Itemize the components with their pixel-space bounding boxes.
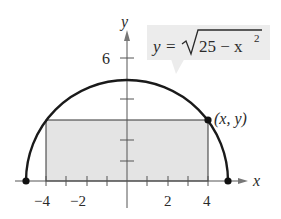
- x-axis-label: x: [252, 172, 260, 189]
- x-tick-label-neg2: −2: [70, 193, 86, 209]
- x-axis-arrow-icon: [238, 178, 248, 184]
- point-xy: [204, 116, 211, 123]
- y-axis-label: y: [119, 13, 129, 31]
- semicircle-diagram: y x 6 −4 −2 2 4 (x, y) y = 25 − x 2: [0, 0, 281, 219]
- equation-radicand: 25 − x: [199, 37, 243, 56]
- x-tick-label-2: 2: [164, 193, 172, 209]
- endpoint-left: [22, 177, 29, 184]
- endpoint-right: [224, 177, 231, 184]
- point-label: (x, y): [214, 110, 247, 128]
- y-axis-arrow-icon: [124, 30, 130, 41]
- equation-equals: =: [166, 37, 176, 56]
- equation-lhs: y: [151, 37, 161, 56]
- x-tick-label-4: 4: [203, 193, 211, 209]
- y-tick-label-6: 6: [102, 50, 110, 67]
- equation-exponent: 2: [254, 32, 260, 44]
- x-tick-label-neg4: −4: [34, 193, 50, 209]
